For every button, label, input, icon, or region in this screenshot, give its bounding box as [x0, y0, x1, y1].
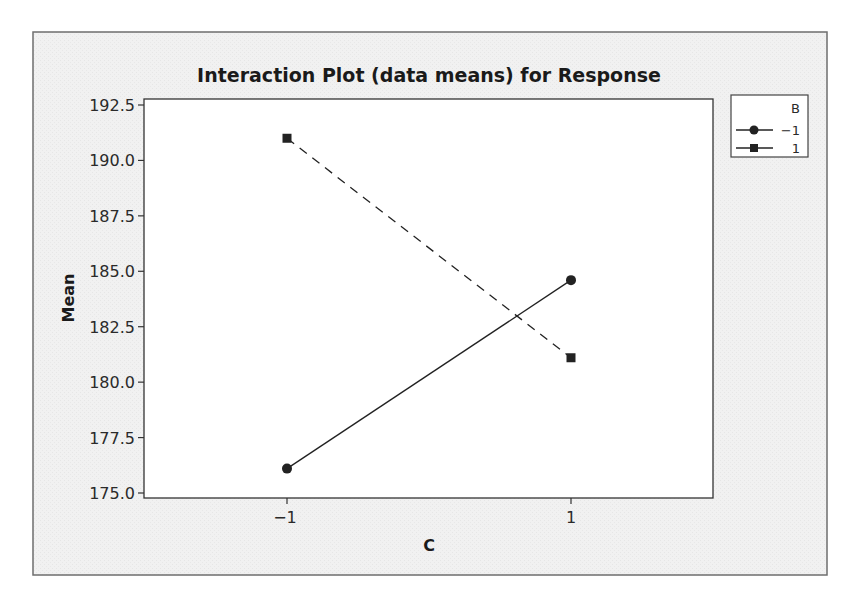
y-tick-label: 182.5	[89, 318, 135, 337]
y-tick-label: 180.0	[89, 373, 135, 392]
x-axis-title: C	[423, 536, 435, 555]
legend-label: 1	[792, 141, 800, 156]
circle-marker-icon	[750, 126, 759, 135]
circle-marker-icon	[282, 464, 292, 474]
square-marker-icon	[750, 144, 758, 152]
y-tick-label: 177.5	[89, 429, 135, 448]
chart-title: Interaction Plot (data means) for Respon…	[197, 64, 661, 86]
y-tick-label: 175.0	[89, 484, 135, 503]
x-tick-label: 1	[566, 508, 576, 527]
y-tick-label: 192.5	[89, 96, 135, 115]
square-marker-icon	[283, 134, 292, 143]
y-tick-label: 190.0	[89, 151, 135, 170]
y-tick-label: 185.0	[89, 262, 135, 281]
plot-area	[144, 99, 713, 498]
interaction-plot: Interaction Plot (data means) for Respon…	[0, 0, 860, 603]
x-tick-label: −1	[273, 508, 297, 527]
legend-label: −1	[781, 123, 800, 138]
y-axis-title: Mean	[59, 274, 78, 323]
legend-title: B	[791, 101, 800, 116]
y-tick-label: 187.5	[89, 207, 135, 226]
legend: B −1 1	[731, 95, 808, 157]
square-marker-icon	[567, 353, 576, 362]
circle-marker-icon	[566, 275, 576, 285]
